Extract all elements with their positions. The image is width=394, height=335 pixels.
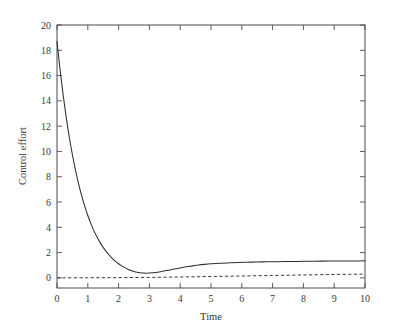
x-tick-label: 1 [85, 293, 90, 304]
chart-figure: 02468101214161820 012345678910 Time Cont… [0, 0, 394, 335]
x-tick-label: 4 [178, 293, 183, 304]
x-tick-label: 6 [239, 293, 244, 304]
y-tick-label: 0 [46, 272, 51, 283]
x-tick-label: 0 [55, 293, 60, 304]
x-tick-label: 8 [301, 293, 306, 304]
x-tick-label: 7 [270, 293, 275, 304]
y-tick-label: 6 [46, 197, 51, 208]
y-axis-title: Control effort [17, 127, 28, 185]
x-tick-label: 5 [209, 293, 214, 304]
y-tick-label: 12 [41, 121, 51, 132]
y-tick-label: 20 [41, 20, 51, 31]
x-tick-label: 9 [332, 293, 337, 304]
y-tick-label: 10 [41, 146, 51, 157]
y-tick-label: 2 [46, 247, 51, 258]
x-tick-label: 3 [147, 293, 152, 304]
y-tick-label: 4 [46, 222, 51, 233]
y-tick-label: 8 [46, 171, 51, 182]
y-tick-label: 14 [41, 95, 51, 106]
y-tick-label: 18 [41, 45, 51, 56]
line-chart-svg: 02468101214161820 012345678910 Time Cont… [0, 0, 394, 335]
x-tick-label: 2 [116, 293, 121, 304]
y-tick-label: 16 [41, 70, 51, 81]
x-axis-title: Time [200, 311, 222, 322]
x-tick-label: 10 [360, 293, 370, 304]
